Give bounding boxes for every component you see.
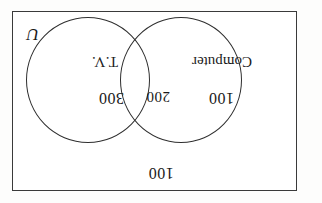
tv-only-count: 300 bbox=[99, 90, 125, 106]
intersection-count: 200 bbox=[146, 89, 170, 104]
venn-diagram-figure: 100 100 200 300 Computer T.V. U bbox=[0, 0, 322, 203]
universal-set-symbol: U bbox=[27, 26, 39, 43]
set-label-computer: Computer bbox=[192, 54, 252, 69]
set-circle-tv bbox=[26, 17, 150, 143]
computer-only-count: 100 bbox=[209, 90, 235, 106]
outside-region-count: 100 bbox=[0, 165, 322, 181]
set-label-tv: T.V. bbox=[92, 54, 118, 69]
